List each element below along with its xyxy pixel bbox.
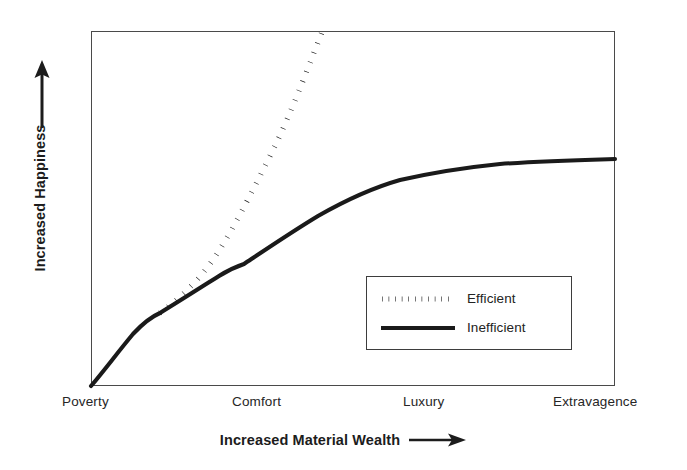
x-tick-label-poverty: Poverty bbox=[62, 394, 109, 409]
x-tick-label-luxury: Luxury bbox=[403, 394, 444, 409]
solid-line-swatch bbox=[381, 323, 455, 333]
legend-item-efficient: Efficient bbox=[381, 289, 571, 309]
x-axis-title: Increased Material Wealth bbox=[0, 432, 687, 448]
legend-label-inefficient: Inefficient bbox=[467, 320, 526, 335]
right-arrow-icon bbox=[409, 432, 467, 448]
x-axis-title-text: Increased Material Wealth bbox=[220, 432, 400, 448]
x-tick-label-extravagence: Extravagence bbox=[553, 394, 637, 409]
x-tick-label-comfort: Comfort bbox=[232, 394, 281, 409]
dotted-line-swatch bbox=[381, 294, 455, 304]
legend-item-inefficient: Inefficient bbox=[381, 318, 571, 338]
chart-figure: Increased Happiness Poverty Comfort Luxu… bbox=[0, 0, 687, 470]
y-axis-title: Increased Happiness bbox=[32, 78, 48, 318]
y-axis: Increased Happiness bbox=[0, 50, 80, 380]
legend-label-efficient: Efficient bbox=[467, 291, 516, 306]
legend: Efficient Inefficient bbox=[366, 276, 572, 350]
